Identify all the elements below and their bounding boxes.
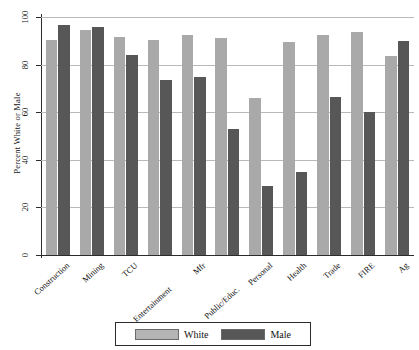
- y-tick-label: 80: [21, 56, 29, 74]
- bar-group: [143, 17, 177, 255]
- bar-group: [312, 17, 346, 255]
- y-tick-label: 100: [21, 8, 29, 26]
- bar-group: [380, 17, 414, 255]
- bar-male: [296, 172, 308, 255]
- white-swatch-icon: [135, 329, 179, 340]
- y-tick-label: 60: [21, 103, 29, 121]
- bar-chart-figure: Percent White or Male 020406080100 Const…: [0, 0, 419, 350]
- bar-white: [215, 38, 227, 255]
- legend-item-white: White: [135, 329, 208, 340]
- bar-group: [177, 17, 211, 255]
- bar-male: [160, 80, 172, 255]
- bar-white: [114, 37, 126, 255]
- bar-white: [148, 40, 160, 255]
- bar-group: [346, 17, 380, 255]
- bar-male: [58, 25, 70, 255]
- bar-group: [278, 17, 312, 255]
- bar-white: [80, 30, 92, 255]
- bar-white: [182, 35, 194, 255]
- y-tick-label: 20: [21, 198, 29, 216]
- bar-series-container: [41, 17, 414, 255]
- bar-group: [109, 17, 143, 255]
- bar-white: [351, 32, 363, 255]
- bar-male: [398, 41, 410, 255]
- bar-group: [41, 17, 75, 255]
- bar-male: [126, 55, 138, 255]
- bar-male: [92, 27, 104, 255]
- bar-white: [46, 40, 58, 255]
- bar-white: [317, 35, 329, 255]
- bar-group: [211, 17, 245, 255]
- bar-male: [364, 112, 376, 255]
- legend-label-male: Male: [270, 329, 291, 340]
- x-axis-category-labels: ConstructionMiningTCUEntertainmentMfrPub…: [41, 255, 414, 315]
- chart-legend: White Male: [115, 322, 311, 346]
- y-tick-label: 40: [21, 151, 29, 169]
- legend-item-male: Male: [221, 329, 291, 340]
- plot-area: 020406080100: [41, 17, 411, 255]
- bar-white: [283, 42, 295, 255]
- bar-male: [262, 186, 274, 255]
- legend-label-white: White: [184, 329, 208, 340]
- bar-group: [244, 17, 278, 255]
- bar-male: [228, 129, 240, 255]
- bar-white: [385, 56, 397, 255]
- bar-white: [249, 98, 261, 255]
- y-tick-label: 0: [21, 246, 29, 264]
- bar-male: [330, 97, 342, 255]
- male-swatch-icon: [221, 329, 265, 340]
- bar-group: [75, 17, 109, 255]
- bar-male: [194, 77, 206, 256]
